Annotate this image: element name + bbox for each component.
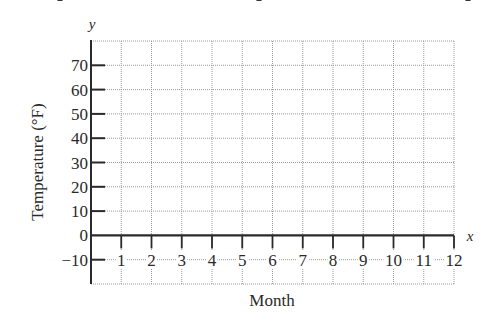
x-tick-label: 5 [238, 251, 247, 270]
x-tick-label: 2 [147, 251, 156, 270]
x-axis-title: Month [249, 291, 295, 310]
y-tick-label: 70 [71, 56, 88, 75]
y-axis-title: Temperature (°F) [28, 103, 47, 220]
x-axis-letter: x [466, 228, 474, 244]
x-tick-label: 12 [446, 251, 463, 270]
y-tick-label: 40 [71, 129, 88, 148]
y-tick-label: 20 [71, 178, 88, 197]
x-tick-label: 6 [268, 251, 277, 270]
x-tick-label: 11 [416, 251, 432, 270]
y-tick-label: 30 [71, 154, 88, 173]
x-tick-label: 3 [178, 251, 187, 270]
y-tick-label: 0 [80, 226, 89, 245]
x-tick-label: 7 [299, 251, 308, 270]
y-tick-label: −10 [61, 251, 88, 270]
y-axis-letter: y [87, 16, 96, 32]
x-tick-label: 1 [117, 251, 126, 270]
y-tick-label: 50 [71, 105, 88, 124]
x-tick-label: 9 [359, 251, 368, 270]
x-tick-label: 8 [329, 251, 338, 270]
chart: 706050403020100−10123456789101112 y x Mo… [0, 0, 492, 326]
y-tick-label: 60 [71, 81, 88, 100]
x-tick-label: 4 [208, 251, 217, 270]
x-tick-label: 10 [385, 251, 402, 270]
y-tick-label: 10 [71, 202, 88, 221]
